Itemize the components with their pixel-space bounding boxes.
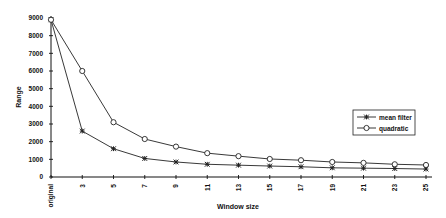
x-tick-label: 13: [235, 184, 242, 192]
y-tick-label: 4000: [29, 103, 44, 110]
legend-label: quadratic: [379, 125, 409, 133]
legend: mean filter quadratic: [353, 110, 415, 135]
y-tick-label: 6000: [29, 67, 44, 74]
y-axis-title: Range: [15, 86, 23, 108]
x-tick-label: 3: [79, 184, 86, 188]
y-tick-label: 1000: [29, 156, 44, 163]
legend-label: mean filter: [379, 114, 412, 121]
x-tick-label: 19: [329, 184, 336, 192]
x-tick-label: 9: [172, 184, 179, 188]
open-circle-marker-icon: [364, 125, 369, 130]
y-tick-label: 9000: [29, 14, 44, 21]
x-tick-label: original: [47, 184, 55, 208]
x-axis-title: Window size: [217, 203, 259, 210]
y-tick-label: 5000: [29, 85, 44, 92]
x-tick-label: 7: [141, 184, 148, 188]
x-tick-label: 25: [422, 184, 429, 192]
y-tick-label: 7000: [29, 50, 44, 57]
series-quadratic: [48, 17, 428, 167]
y-tick-label: 2000: [29, 138, 44, 145]
line-chart: 0100020003000400050006000700080009000 or…: [0, 0, 446, 218]
y-tick-label: 0: [39, 173, 43, 180]
y-tick-label: 3000: [29, 120, 44, 127]
x-tick-label: 21: [360, 184, 367, 192]
y-tick-label: 8000: [29, 32, 44, 39]
x-tick-label: 11: [204, 184, 211, 191]
y-axis: 0100020003000400050006000700080009000: [29, 14, 53, 180]
series-mean-filter: [49, 17, 429, 171]
asterisk-marker-icon: [364, 115, 369, 120]
x-tick-label: 17: [297, 184, 304, 192]
x-tick-label: 5: [110, 184, 117, 188]
x-tick-label: 15: [266, 184, 273, 192]
x-tick-label: 23: [391, 184, 398, 192]
data-series: [48, 17, 428, 171]
